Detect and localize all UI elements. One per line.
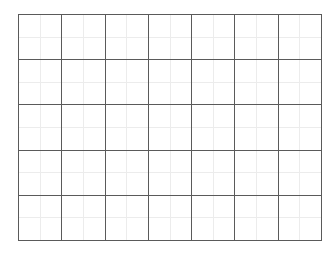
grid-diagram [0,0,336,254]
minor-grid-lines [18,14,321,240]
